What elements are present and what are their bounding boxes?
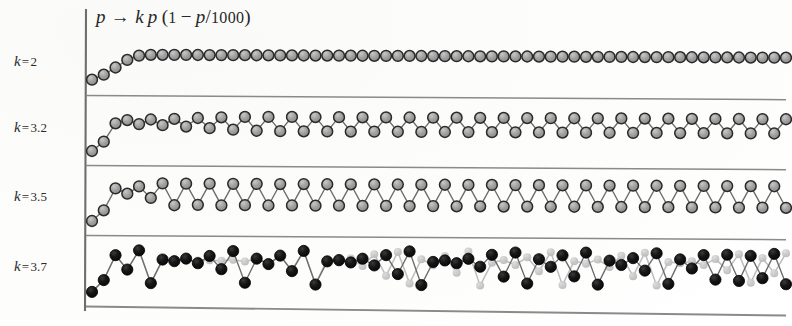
data-point	[416, 51, 427, 62]
panel-1-plot	[87, 111, 792, 156]
data-point	[110, 118, 121, 129]
data-point	[216, 50, 227, 61]
data-point	[122, 264, 133, 275]
data-point	[228, 178, 239, 189]
data-point	[406, 279, 414, 287]
data-point	[770, 269, 778, 277]
data-point	[487, 127, 498, 138]
data-point	[439, 51, 450, 62]
data-point	[263, 200, 274, 211]
logistic-map-figure: k=2 k=3.2 k=3.5 k=3.7 p→kp(1−p/1000)	[0, 0, 792, 326]
data-point	[251, 253, 262, 264]
series-trajectory	[87, 49, 792, 85]
data-point	[616, 113, 627, 124]
data-point	[698, 128, 709, 139]
data-point	[498, 51, 509, 62]
series-layer	[86, 49, 791, 297]
data-point	[592, 279, 603, 290]
data-point	[122, 188, 133, 199]
data-point	[522, 51, 533, 62]
data-point	[345, 50, 356, 61]
data-point	[241, 258, 249, 266]
data-point	[369, 260, 380, 271]
data-point	[627, 253, 638, 264]
panel-separator-1	[86, 166, 786, 170]
data-point	[87, 146, 98, 157]
data-point	[675, 254, 686, 265]
data-point	[710, 114, 721, 125]
data-point	[369, 50, 380, 61]
data-point	[735, 250, 743, 258]
data-point	[463, 179, 474, 190]
data-point	[559, 281, 567, 289]
data-point	[710, 202, 721, 213]
data-point	[545, 51, 556, 62]
panel-separator-2	[86, 236, 786, 240]
data-point	[486, 249, 497, 260]
data-point	[628, 127, 639, 138]
data-point	[500, 256, 508, 264]
data-point	[216, 200, 227, 211]
data-point	[169, 113, 180, 124]
data-point	[710, 274, 721, 285]
data-point	[569, 51, 580, 62]
data-point	[451, 258, 462, 269]
data-point	[734, 202, 745, 213]
data-point	[722, 128, 733, 139]
data-point	[722, 249, 733, 260]
data-point	[675, 52, 686, 63]
data-point	[382, 272, 390, 280]
data-point	[357, 253, 368, 264]
data-point	[263, 111, 274, 122]
data-point	[698, 52, 709, 63]
data-point	[545, 201, 556, 212]
data-point	[769, 181, 780, 192]
data-point	[757, 202, 768, 213]
data-point	[675, 180, 686, 191]
data-point	[663, 202, 674, 213]
data-point	[181, 50, 192, 61]
data-point	[769, 128, 780, 139]
data-point	[439, 179, 450, 190]
data-point	[157, 178, 168, 189]
data-point	[534, 51, 545, 62]
data-point	[569, 113, 580, 124]
data-point	[240, 112, 251, 123]
data-point	[534, 127, 545, 138]
data-point	[334, 50, 345, 61]
data-point	[287, 50, 298, 61]
data-point	[169, 256, 180, 267]
data-point	[345, 257, 356, 268]
data-point	[428, 51, 439, 62]
data-point	[334, 112, 345, 123]
data-point	[322, 256, 333, 267]
data-point	[769, 52, 780, 63]
data-point	[687, 113, 698, 124]
data-point	[569, 271, 580, 282]
data-point	[769, 248, 780, 259]
data-point	[757, 273, 768, 284]
data-point	[192, 199, 203, 210]
data-point	[616, 202, 627, 213]
data-point	[733, 275, 744, 286]
panel-separator-3	[86, 307, 786, 316]
data-point	[392, 126, 403, 137]
data-point	[592, 202, 603, 213]
data-point	[476, 282, 484, 290]
data-point	[604, 127, 615, 138]
data-point	[157, 120, 168, 131]
data-point	[498, 201, 509, 212]
data-point	[439, 127, 450, 138]
data-point	[204, 250, 215, 261]
data-point	[381, 200, 392, 211]
data-point	[663, 52, 674, 63]
data-point	[240, 50, 251, 61]
data-point	[98, 69, 109, 80]
data-point	[357, 201, 368, 212]
panel-separator-0	[86, 96, 786, 100]
data-point	[416, 279, 427, 290]
data-point	[594, 256, 602, 264]
data-point	[333, 255, 344, 266]
data-point	[110, 183, 121, 194]
data-point	[322, 50, 333, 61]
